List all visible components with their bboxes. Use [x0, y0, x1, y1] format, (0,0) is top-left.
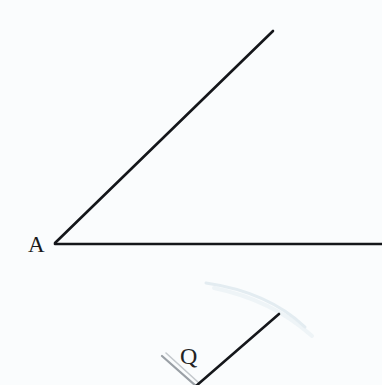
vertex-label-q: Q [180, 343, 197, 369]
geometry-figure-canvas: A Q [0, 0, 382, 385]
vertex-label-a: A [28, 232, 45, 257]
page-background [0, 0, 382, 385]
figure-svg: A Q [0, 0, 382, 385]
